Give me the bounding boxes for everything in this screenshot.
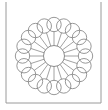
- figure-root: [0, 0, 108, 110]
- hub-circle: [44, 46, 65, 67]
- rosette-diagram: [0, 0, 108, 110]
- center-hub-circle: [44, 46, 65, 67]
